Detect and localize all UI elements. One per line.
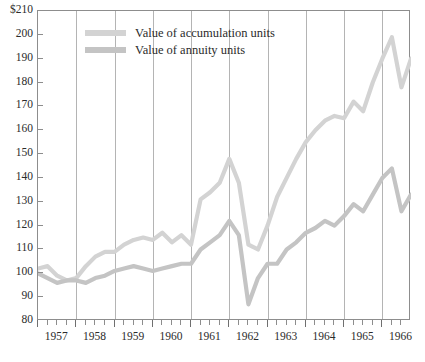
y-axis-tick-label: 170 <box>16 99 33 111</box>
y-axis-tick-mark <box>37 201 43 202</box>
x-axis-tick-major <box>75 320 76 327</box>
x-axis-tick-minor <box>324 320 325 325</box>
x-axis-tick-major <box>37 320 38 327</box>
x-axis-tick-major <box>114 320 115 327</box>
legend-item-accumulation: Value of accumulation units <box>85 25 275 40</box>
x-axis-tick-minor <box>142 320 143 325</box>
legend-swatch-accumulation <box>85 30 126 36</box>
chart-container: 8090100110120130140150160170180190200$21… <box>0 0 425 362</box>
y-axis-tick-label: 80 <box>22 314 34 326</box>
x-axis-tick-minor <box>209 320 210 325</box>
x-axis-tick-label: 1966 <box>380 330 420 342</box>
x-axis-tick-major <box>381 320 382 327</box>
y-axis-tick-label: 120 <box>16 219 33 231</box>
y-axis-tick-label: 110 <box>16 242 33 254</box>
page-caption-sliver <box>8 352 418 361</box>
x-axis-tick-major <box>228 320 229 327</box>
y-axis-tick-mark <box>37 34 43 35</box>
x-axis-tick-label: 1965 <box>342 330 382 342</box>
y-axis-tick-label: 130 <box>16 195 33 207</box>
chart-legend: Value of accumulation units Value of ann… <box>85 25 275 57</box>
y-axis-tick-mark <box>37 177 43 178</box>
y-axis-tick-label: 190 <box>16 52 33 64</box>
x-axis-tick-minor <box>219 320 220 325</box>
y-axis-tick-mark <box>37 58 43 59</box>
y-axis-tick-mark <box>37 248 43 249</box>
legend-swatch-annuity <box>85 47 126 53</box>
x-axis-tick-label: 1959 <box>113 330 153 342</box>
x-axis-tick-minor <box>104 320 105 325</box>
x-axis-tick-major <box>190 320 191 327</box>
x-axis-tick-label: 1964 <box>304 330 344 342</box>
x-axis-tick-major <box>267 320 268 327</box>
x-axis-tick-minor <box>286 320 287 325</box>
x-axis-tick-minor <box>94 320 95 325</box>
x-axis-tick-label: 1962 <box>227 330 267 342</box>
legend-label-accumulation: Value of accumulation units <box>135 26 275 40</box>
x-axis-tick-major <box>305 320 306 327</box>
y-axis-tick-mark <box>37 272 43 273</box>
x-axis-tick-minor <box>200 320 201 325</box>
x-axis-tick-label: 1961 <box>189 330 229 342</box>
y-axis-tick-mark <box>37 153 43 154</box>
x-axis-tick-label: 1958 <box>74 330 114 342</box>
x-axis-tick-minor <box>314 320 315 325</box>
y-axis-tick-label: 140 <box>16 171 33 183</box>
x-axis-tick-label: 1957 <box>36 330 76 342</box>
x-axis-tick-minor <box>400 320 401 325</box>
series-line <box>38 168 411 304</box>
y-axis-tick-mark <box>37 296 43 297</box>
x-axis-tick-minor <box>180 320 181 325</box>
x-axis-tick-minor <box>362 320 363 325</box>
legend-item-annuity: Value of annuity units <box>85 42 275 57</box>
y-axis-tick-label: 160 <box>16 123 33 135</box>
x-axis-tick-minor <box>353 320 354 325</box>
x-axis-tick-minor <box>85 320 86 325</box>
x-axis-tick-minor <box>123 320 124 325</box>
x-axis-tick-minor <box>295 320 296 325</box>
x-axis-tick-minor <box>372 320 373 325</box>
y-axis-tick-label: 180 <box>16 76 33 88</box>
x-axis-tick-minor <box>333 320 334 325</box>
x-axis-tick-minor <box>238 320 239 325</box>
x-axis-tick-minor <box>276 320 277 325</box>
x-axis-tick-label: 1963 <box>266 330 306 342</box>
series-line <box>38 37 411 280</box>
x-axis-tick-minor <box>56 320 57 325</box>
x-axis-tick-minor <box>161 320 162 325</box>
x-axis-tick-minor <box>47 320 48 325</box>
x-axis-tick-major <box>343 320 344 327</box>
x-axis-tick-major <box>152 320 153 327</box>
x-axis-tick-minor <box>391 320 392 325</box>
x-axis-tick-minor <box>66 320 67 325</box>
y-axis-tick-label: 200 <box>16 28 33 40</box>
y-axis-tick-label: 150 <box>16 147 33 159</box>
y-axis-tick-mark <box>37 129 43 130</box>
y-axis-tick-label: $210 <box>10 4 33 16</box>
legend-label-annuity: Value of annuity units <box>135 43 245 57</box>
y-axis-tick-mark <box>37 105 43 106</box>
x-axis-tick-minor <box>171 320 172 325</box>
x-axis-tick-minor <box>133 320 134 325</box>
y-axis-tick-label: 90 <box>22 290 34 302</box>
y-axis-tick-label: 100 <box>16 266 33 278</box>
y-axis-tick-mark <box>37 82 43 83</box>
x-axis-tick-minor <box>247 320 248 325</box>
y-axis-tick-mark <box>37 225 43 226</box>
x-axis-tick-label: 1960 <box>151 330 191 342</box>
series-lines <box>38 11 411 321</box>
y-axis: 8090100110120130140150160170180190200$21… <box>0 0 33 362</box>
x-axis-tick-minor <box>257 320 258 325</box>
